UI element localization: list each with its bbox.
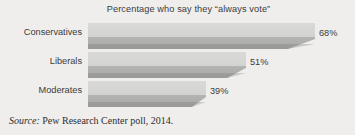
bar-conservatives[interactable] [88, 23, 315, 49]
value-label-conservatives: 68% [319, 28, 337, 38]
chart-figure: Percentage who say they “always vote” Co… [0, 0, 355, 135]
bar-front-face [88, 73, 246, 78]
category-label-conservatives: Conservatives [0, 27, 82, 37]
bar-row: Moderates 39% [0, 81, 355, 107]
value-label-moderates: 39% [210, 86, 228, 96]
source-text: Pew Research Center poll, 2014. [42, 115, 173, 126]
category-label-liberals: Liberals [0, 56, 82, 66]
bar-front-face [88, 44, 315, 49]
value-label-liberals: 51% [250, 57, 268, 67]
source-note: Source: Pew Research Center poll, 2014. [9, 115, 173, 126]
plot-area: Conservatives 68% Liberals 51% Moderates… [0, 21, 355, 110]
source-label: Source: [9, 115, 40, 126]
bar-front-face [88, 102, 206, 107]
bar-moderates[interactable] [88, 81, 206, 107]
chart-title: Percentage who say they “always vote” [0, 4, 355, 14]
bar-liberals[interactable] [88, 52, 246, 78]
bar-row: Conservatives 68% [0, 23, 355, 49]
bar-row: Liberals 51% [0, 52, 355, 78]
category-label-moderates: Moderates [0, 85, 82, 95]
